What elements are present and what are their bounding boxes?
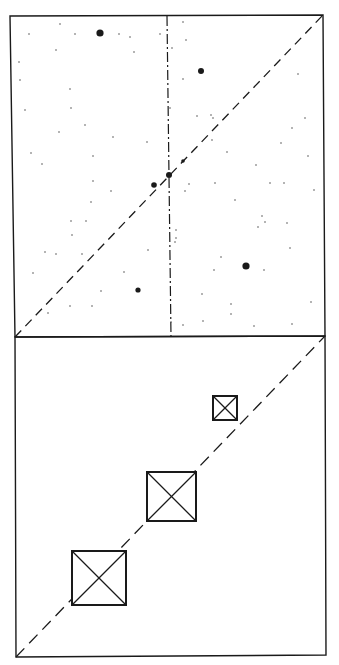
faint-star <box>71 234 73 236</box>
faint-star <box>171 47 173 49</box>
faint-star <box>196 115 198 117</box>
faint-star <box>32 272 34 274</box>
bright-star <box>96 29 103 36</box>
faint-star <box>92 180 94 182</box>
faint-star <box>85 220 87 222</box>
faint-star <box>283 182 285 184</box>
faint-star <box>184 190 186 192</box>
faint-star <box>175 237 177 239</box>
faint-star <box>213 269 215 271</box>
faint-star <box>286 222 288 224</box>
faint-star <box>297 73 299 75</box>
faint-star <box>55 49 57 51</box>
faint-star <box>91 305 93 307</box>
faint-star <box>182 21 184 23</box>
faint-star <box>188 183 190 185</box>
faint-star <box>44 251 46 253</box>
faint-star <box>147 249 149 251</box>
faint-star <box>264 221 266 223</box>
faint-star <box>185 39 187 41</box>
bright-star <box>198 68 204 74</box>
faint-star <box>59 23 61 25</box>
faint-star <box>310 301 312 303</box>
faint-star <box>201 293 203 295</box>
small-box <box>213 396 237 420</box>
crossed-boxes <box>72 396 237 605</box>
faint-star <box>55 253 57 255</box>
faint-star <box>307 155 309 157</box>
faint-star <box>133 51 135 53</box>
faint-star <box>182 324 184 326</box>
faint-star <box>146 141 148 143</box>
faint-star <box>110 190 112 192</box>
bright-stars <box>96 29 249 292</box>
faint-star <box>70 220 72 222</box>
faint-star <box>112 136 114 138</box>
faint-star <box>210 114 212 116</box>
faint-star <box>226 151 228 153</box>
faint-star <box>70 107 72 109</box>
faint-star <box>18 61 20 63</box>
diagram-canvas <box>0 0 339 665</box>
faint-star <box>291 127 293 129</box>
bright-star <box>242 262 249 269</box>
bright-star <box>181 159 185 163</box>
faint-star <box>182 78 184 80</box>
faint-star <box>30 152 32 154</box>
faint-star <box>230 303 232 305</box>
faint-star <box>90 201 92 203</box>
bright-star <box>151 182 157 188</box>
faint-star <box>212 117 214 119</box>
faint-star <box>255 164 257 166</box>
faint-star <box>214 182 216 184</box>
faint-star <box>58 131 60 133</box>
faint-star <box>123 271 125 273</box>
faint-star <box>253 325 255 327</box>
faint-star <box>69 305 71 307</box>
faint-star <box>129 36 131 38</box>
faint-star <box>313 189 315 191</box>
faint-star <box>100 290 102 292</box>
faint-star <box>289 247 291 249</box>
faint-star <box>175 229 177 231</box>
faint-star <box>220 256 222 258</box>
bottom-panel-boxes <box>15 336 326 657</box>
faint-star <box>24 109 26 111</box>
faint-star <box>257 226 259 228</box>
faint-star <box>211 139 213 141</box>
faint-star <box>84 124 86 126</box>
bright-star <box>135 287 140 292</box>
faint-star <box>174 241 176 243</box>
faint-star <box>92 155 94 157</box>
large-box <box>72 551 126 605</box>
faint-star <box>234 199 236 201</box>
faint-star <box>261 215 263 217</box>
faint-star <box>19 79 21 81</box>
faint-star <box>69 88 71 90</box>
faint-star <box>74 33 76 35</box>
faint-star <box>28 33 30 35</box>
faint-star <box>280 142 282 144</box>
faint-star <box>81 253 83 255</box>
faint-star <box>263 269 265 271</box>
top-panel-star-field <box>10 15 325 337</box>
faint-star <box>304 117 306 119</box>
star-field-diagram <box>0 0 339 665</box>
bright-star <box>166 172 172 178</box>
faint-star <box>269 182 271 184</box>
faint-star <box>47 312 49 314</box>
faint-star <box>170 321 172 323</box>
faint-star <box>291 323 293 325</box>
faint-star <box>118 33 120 35</box>
faint-star <box>230 313 232 315</box>
medium-box <box>147 472 196 521</box>
faint-star <box>41 163 43 165</box>
faint-star <box>169 107 171 109</box>
faint-star <box>202 320 204 322</box>
faint-star <box>159 33 161 35</box>
